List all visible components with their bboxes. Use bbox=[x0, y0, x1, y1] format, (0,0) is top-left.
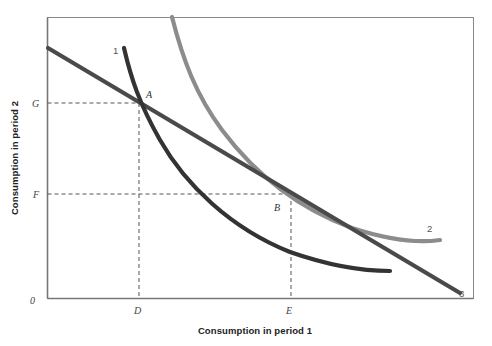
point-label-a: A bbox=[145, 89, 153, 100]
y-axis-title: Consumption in period 2 bbox=[9, 101, 20, 215]
x-tick-label-d: D bbox=[133, 305, 142, 316]
y-tick-label-g: G bbox=[32, 98, 39, 109]
curve-label-1: 1 bbox=[113, 45, 118, 56]
indifference-curve-chart: 1 2 3 A B 0 G F D E Consumption in perio… bbox=[0, 0, 492, 346]
plot-frame bbox=[48, 18, 474, 299]
curve-label-2: 2 bbox=[427, 223, 432, 234]
x-axis-title: Consumption in period 1 bbox=[198, 325, 313, 336]
y-tick-label-f: F bbox=[32, 189, 40, 200]
curve-label-3: 3 bbox=[459, 288, 464, 299]
x-tick-label-e: E bbox=[285, 305, 292, 316]
point-label-b: B bbox=[274, 202, 280, 213]
figure-container: 1 2 3 A B 0 G F D E Consumption in perio… bbox=[0, 0, 492, 346]
origin-label: 0 bbox=[30, 295, 35, 306]
